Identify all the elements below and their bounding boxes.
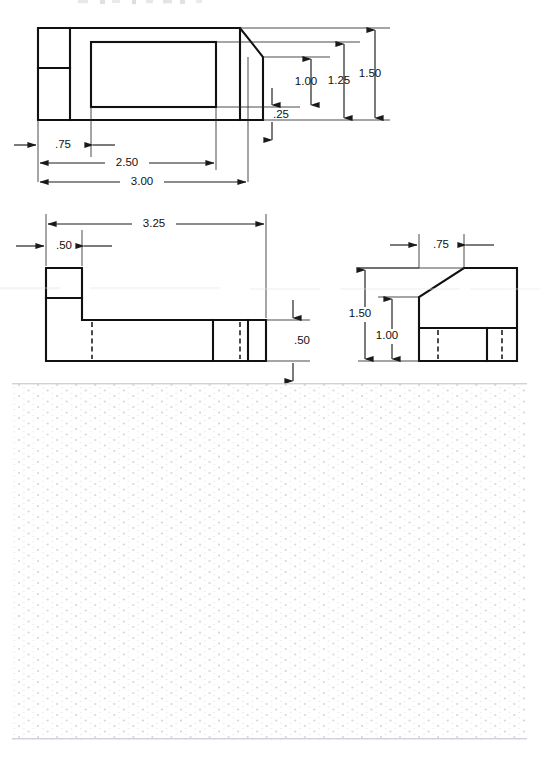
dim-label-side-075: .75 [433,238,449,250]
isometric-grid-top-border [12,383,527,384]
dim-label-top-300: 3.00 [131,175,153,187]
dim-label-top-125: 1.25 [328,74,350,86]
isometric-grid-field [12,383,527,740]
dim-label-top-250: 2.50 [116,156,138,168]
top-view-inner-rect [91,42,216,107]
top-view: .25 1.00 1.25 1.50 .75 2.50 [14,28,390,190]
right-side-view: .75 1.50 1.00 [343,234,517,361]
front-view: 3.25 .50 .50 [16,214,310,381]
drawing-sheet: .25 1.00 1.25 1.50 .75 2.50 [0,0,546,757]
dim-label-front-050: .50 [56,239,72,251]
dim-label-top-100: 1.00 [295,75,317,87]
cropped-header-text [78,0,202,4]
dim-label-top-025: .25 [273,108,289,120]
dim-label-top-075: .75 [55,138,71,150]
isometric-grid-bottom-border [12,738,527,739]
dim-label-front-050v: .50 [294,334,310,346]
dim-label-top-150: 1.50 [359,67,381,79]
dim-label-front-325: 3.25 [143,217,165,229]
drawing-canvas: .25 1.00 1.25 1.50 .75 2.50 [0,0,546,757]
dim-label-side-150: 1.50 [349,307,371,319]
front-view-outline [46,268,266,361]
isometric-grid [12,383,527,740]
dim-label-side-100: 1.00 [376,329,398,341]
